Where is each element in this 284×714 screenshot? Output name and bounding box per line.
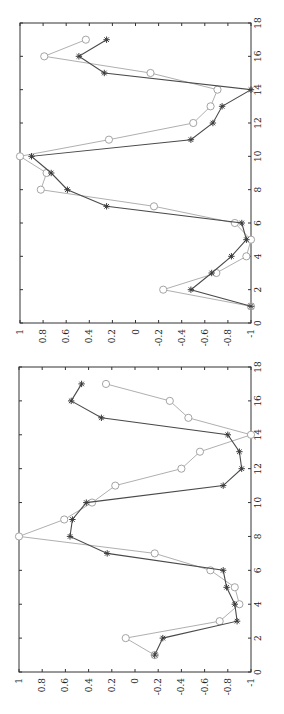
star-marker-icon <box>225 432 231 438</box>
value-tick-label: 1 <box>15 329 25 335</box>
series-line-circle <box>20 40 251 307</box>
circle-marker-icon <box>207 103 214 110</box>
figure: 10.80.60.40.20-0.2-0.4-0.6-0.8-102468101… <box>0 0 284 714</box>
value-tick-label: -1 <box>246 678 256 687</box>
star-marker-icon <box>188 287 194 293</box>
value-tick-label: -1 <box>246 329 256 338</box>
series-line-circle <box>19 384 251 655</box>
value-tick-label: 0 <box>131 329 141 335</box>
circle-marker-icon <box>37 186 44 193</box>
star-marker-icon <box>239 220 245 226</box>
x-tick-label: 16 <box>253 50 263 62</box>
circle-marker-icon <box>178 465 185 472</box>
series-line-star <box>32 40 252 307</box>
circle-marker-icon <box>147 69 154 76</box>
star-marker-icon <box>248 87 254 93</box>
star-marker-icon <box>64 187 70 193</box>
x-tick-label: 12 <box>253 117 263 128</box>
circle-marker-icon <box>196 448 203 455</box>
x-tick-label: 0 <box>253 320 263 326</box>
circle-marker-icon <box>243 253 250 260</box>
star-marker-icon <box>68 398 74 404</box>
value-tick-label: 0.2 <box>107 329 117 343</box>
circle-marker-icon <box>150 203 157 210</box>
star-marker-icon <box>69 516 75 522</box>
circle-marker-icon <box>112 482 119 489</box>
value-tick-label: 0 <box>130 678 140 684</box>
circle-marker-icon <box>166 397 173 404</box>
star-marker-icon <box>219 103 225 109</box>
value-tick-label: -0.6 <box>200 329 210 347</box>
star-marker-icon <box>98 415 104 421</box>
value-tick-label: -0.4 <box>177 329 187 347</box>
star-marker-icon <box>103 37 109 43</box>
x-tick-label: 8 <box>253 187 263 193</box>
value-tick-label: 0.4 <box>84 678 94 693</box>
x-tick-label: 2 <box>253 287 263 293</box>
x-tick-label: 10 <box>253 150 263 162</box>
star-marker-icon <box>248 303 254 309</box>
value-tick-label: -0.2 <box>153 678 163 695</box>
value-tick-label: 1 <box>14 678 24 684</box>
x-tick-label: 2 <box>253 635 263 641</box>
plot-frame <box>20 23 251 323</box>
star-marker-icon <box>78 381 84 387</box>
chart-canvas: 10.80.60.40.20-0.2-0.4-0.6-0.8-102468101… <box>0 0 284 714</box>
x-tick-label: 0 <box>253 669 263 675</box>
circle-marker-icon <box>190 119 197 126</box>
star-marker-icon <box>160 635 166 641</box>
star-marker-icon <box>220 567 226 573</box>
circle-marker-icon <box>216 618 223 625</box>
value-tick-label: 0.2 <box>107 678 117 692</box>
value-tick-label: -0.2 <box>154 329 164 346</box>
x-tick-label: 4 <box>253 601 263 607</box>
star-marker-icon <box>209 270 215 276</box>
circle-marker-icon <box>61 516 68 523</box>
star-marker-icon <box>76 53 82 59</box>
value-tick-label: 0.6 <box>61 329 71 344</box>
star-marker-icon <box>101 70 107 76</box>
value-tick-label: -0.4 <box>176 678 186 696</box>
star-marker-icon <box>210 120 216 126</box>
value-tick-label: 0.6 <box>60 678 70 693</box>
x-tick-label: 14 <box>253 84 263 96</box>
x-tick-label: 12 <box>253 463 263 474</box>
x-tick-label: 10 <box>253 497 263 509</box>
circle-marker-icon <box>122 635 129 642</box>
x-tick-label: 8 <box>253 533 263 539</box>
circle-marker-icon <box>214 86 221 93</box>
circle-marker-icon <box>151 550 158 557</box>
circle-marker-icon <box>82 36 89 43</box>
x-tick-label: 16 <box>253 395 263 407</box>
x-tick-label: 6 <box>253 567 263 573</box>
star-marker-icon <box>220 482 226 488</box>
value-tick-label: 0.8 <box>38 329 48 344</box>
series-line-star <box>70 384 242 655</box>
value-tick-label: -0.6 <box>200 678 210 696</box>
x-tick-label: 4 <box>253 253 263 259</box>
value-tick-label: -0.8 <box>223 678 233 696</box>
circle-marker-icon <box>16 153 23 160</box>
circle-marker-icon <box>41 53 48 60</box>
star-marker-icon <box>67 533 73 539</box>
star-marker-icon <box>236 449 242 455</box>
circle-marker-icon <box>231 584 238 591</box>
circle-marker-icon <box>102 380 109 387</box>
star-marker-icon <box>234 618 240 624</box>
star-marker-icon <box>103 203 109 209</box>
x-tick-label: 6 <box>253 220 263 226</box>
chart-top: 10.80.60.40.20-0.2-0.4-0.6-0.8-102468101… <box>15 17 263 346</box>
star-marker-icon <box>104 550 110 556</box>
star-marker-icon <box>48 170 54 176</box>
circle-marker-icon <box>247 431 254 438</box>
circle-marker-icon <box>160 286 167 293</box>
x-tick-label: 18 <box>253 17 263 29</box>
x-tick-label: 18 <box>253 361 263 373</box>
chart-bottom: 10.80.60.40.20-0.2-0.4-0.6-0.8-102468101… <box>14 361 263 695</box>
circle-marker-icon <box>15 533 22 540</box>
star-marker-icon <box>188 137 194 143</box>
value-tick-label: -0.8 <box>223 329 233 347</box>
value-tick-label: 0.4 <box>84 329 94 344</box>
circle-marker-icon <box>105 136 112 143</box>
circle-marker-icon <box>185 414 192 421</box>
